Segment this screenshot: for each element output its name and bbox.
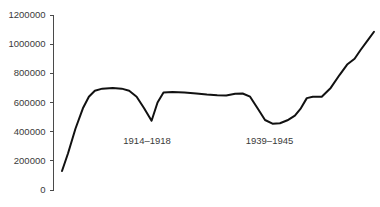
chart-annotation-label: 1914–1918	[123, 135, 171, 146]
line-chart: 120000010000008000006000004000002000000 …	[0, 0, 380, 207]
y-axis-tick-label: 200000	[14, 155, 46, 166]
chart-annotation-label: 1939–1945	[246, 135, 294, 146]
chart-background	[0, 0, 380, 207]
y-axis-tick-label: 1000000	[9, 38, 46, 49]
y-axis-tick-label: 0	[40, 184, 45, 195]
y-axis-tick-label: 400000	[14, 126, 46, 137]
y-axis-tick-label: 600000	[14, 97, 46, 108]
y-axis-tick-label: 1200000	[9, 9, 46, 20]
y-axis-tick-label: 800000	[14, 67, 46, 78]
chart-container: 120000010000008000006000004000002000000 …	[0, 0, 380, 207]
